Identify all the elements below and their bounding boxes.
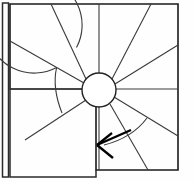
plan-view-canvas — [0, 0, 194, 182]
staircase-plan-drawing — [0, 0, 194, 182]
central-newel-post — [82, 73, 116, 107]
